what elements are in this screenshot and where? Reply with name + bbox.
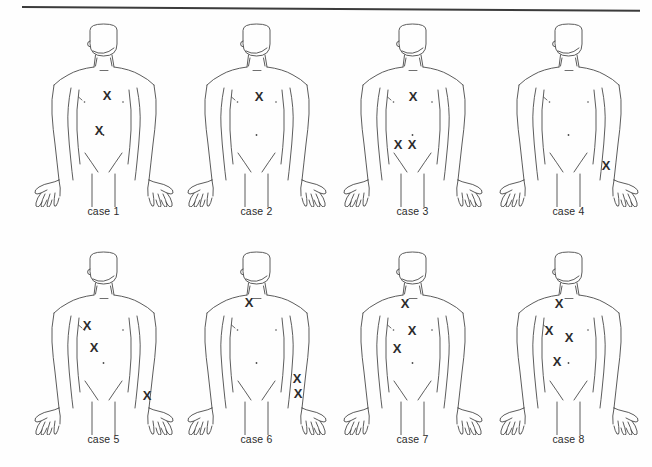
case-cell-3: XXXcase 3 bbox=[331, 22, 494, 232]
scm-right bbox=[264, 58, 266, 66]
nipple-line-left bbox=[232, 97, 236, 100]
trunk-side-left bbox=[386, 90, 389, 164]
inguinal-crease-left bbox=[550, 153, 563, 172]
hand-left bbox=[35, 180, 60, 207]
nipple-line-left bbox=[388, 97, 392, 100]
hand-right bbox=[613, 180, 639, 207]
arm-inner-left bbox=[377, 88, 382, 180]
hand-left bbox=[344, 408, 370, 435]
scm-left bbox=[405, 286, 407, 294]
case-cell-4: Xcase 4 bbox=[487, 22, 650, 232]
header-rule bbox=[22, 6, 640, 12]
shoulder-right bbox=[267, 67, 307, 85]
nipple-left bbox=[84, 101, 86, 103]
umbilicus bbox=[412, 362, 414, 364]
torso-right bbox=[302, 85, 309, 180]
torso-left bbox=[52, 313, 59, 408]
trunk-side-left bbox=[230, 90, 233, 164]
trunk-side-right bbox=[128, 318, 131, 392]
case-cell-5: XXXcase 5 bbox=[22, 250, 185, 460]
shoulder-right bbox=[423, 295, 463, 313]
shoulder-right bbox=[423, 67, 463, 85]
body-figure-3 bbox=[331, 22, 494, 207]
umbilicus bbox=[103, 362, 105, 364]
scm-right bbox=[111, 286, 113, 294]
scm-left bbox=[561, 58, 563, 66]
umbilicus bbox=[412, 134, 414, 136]
umbilicus bbox=[256, 134, 258, 136]
chart-sheet: XXcase 1 bbox=[0, 0, 652, 467]
case-label-3: case 3 bbox=[331, 205, 494, 217]
hand-right bbox=[301, 180, 327, 207]
inguinal-crease-right bbox=[574, 381, 587, 400]
case-cell-7: XXXcase 7 bbox=[331, 250, 494, 460]
torso-left bbox=[52, 85, 59, 180]
trunk-side-left bbox=[77, 318, 80, 392]
trunk-side-left bbox=[386, 318, 389, 392]
nipple-right bbox=[431, 329, 433, 331]
trunk-side-right bbox=[281, 90, 284, 164]
trunk-side-left bbox=[77, 90, 80, 164]
nipple-line-left bbox=[544, 325, 548, 328]
nipple-right bbox=[587, 329, 589, 331]
trunk-side-right bbox=[281, 318, 284, 392]
arm-inner-left bbox=[68, 88, 73, 180]
body-figure-4 bbox=[487, 22, 650, 207]
nipple-left bbox=[549, 329, 551, 331]
case-label-7: case 7 bbox=[331, 433, 494, 445]
arm-inner-left bbox=[533, 88, 538, 180]
hand-left bbox=[344, 180, 370, 207]
jaw-line bbox=[93, 276, 114, 281]
hand-left bbox=[188, 408, 214, 435]
torso-left bbox=[205, 313, 212, 408]
arm-inner-left bbox=[533, 316, 538, 408]
trunk-side-right bbox=[593, 90, 596, 164]
case-label-2: case 2 bbox=[175, 205, 338, 217]
torso-right bbox=[614, 313, 621, 408]
case-label-6: case 6 bbox=[175, 433, 338, 445]
scm-right bbox=[264, 286, 266, 294]
shoulder-left bbox=[207, 67, 247, 85]
case-label-5: case 5 bbox=[22, 433, 185, 445]
torso-left bbox=[517, 85, 524, 180]
torso-right bbox=[302, 313, 309, 408]
shoulder-left bbox=[54, 295, 94, 313]
shoulder-right bbox=[579, 67, 619, 85]
hand-left bbox=[500, 180, 525, 207]
trunk-side-right bbox=[437, 318, 440, 392]
jaw-line bbox=[558, 48, 579, 53]
jaw-line bbox=[558, 276, 579, 281]
nipple-right bbox=[122, 101, 124, 103]
torso-right bbox=[458, 85, 465, 180]
body-figure-7 bbox=[331, 250, 494, 435]
arm-inner-left bbox=[377, 316, 382, 408]
umbilicus bbox=[568, 134, 570, 136]
shoulder-left bbox=[519, 295, 559, 313]
scm-left bbox=[405, 58, 407, 66]
hand-right bbox=[148, 408, 174, 435]
nipple-right bbox=[275, 101, 277, 103]
arm-inner-right bbox=[288, 316, 293, 408]
torso-left bbox=[361, 85, 368, 180]
inguinal-crease-left bbox=[85, 381, 98, 400]
case-label-8: case 8 bbox=[487, 433, 650, 445]
shoulder-left bbox=[519, 67, 559, 85]
trunk-side-right bbox=[593, 318, 596, 392]
scm-left bbox=[561, 286, 563, 294]
nipple-left bbox=[237, 329, 239, 331]
inguinal-crease-left bbox=[238, 153, 251, 172]
arm-inner-right bbox=[444, 316, 449, 408]
case-label-1: case 1 bbox=[22, 205, 185, 217]
nipple-left bbox=[393, 101, 395, 103]
scm-left bbox=[249, 58, 251, 66]
arm-inner-right bbox=[135, 88, 140, 180]
shoulder-left bbox=[363, 67, 403, 85]
inguinal-crease-right bbox=[418, 381, 431, 400]
arm-inner-left bbox=[221, 88, 226, 180]
nipple-left bbox=[84, 329, 86, 331]
inguinal-crease-right bbox=[262, 153, 275, 172]
torso-right bbox=[458, 313, 465, 408]
torso-right bbox=[149, 313, 156, 408]
inguinal-crease-right bbox=[418, 153, 431, 172]
hand-right bbox=[148, 180, 174, 207]
